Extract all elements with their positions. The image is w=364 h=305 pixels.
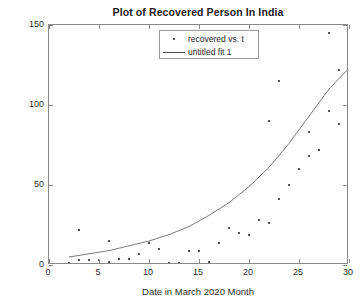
x-tick [249, 259, 250, 263]
data-point [308, 131, 310, 133]
x-tick-top [149, 25, 150, 29]
x-tick-label: 10 [143, 267, 153, 277]
data-point [218, 242, 220, 244]
y-tick [49, 265, 53, 266]
x-tick-top [349, 25, 350, 29]
figure-canvas: Plot of Recovered Person In India Recove… [0, 0, 364, 305]
data-point [268, 222, 270, 224]
scatter-marker-icon [160, 38, 188, 40]
y-tick [49, 105, 53, 106]
data-point [178, 262, 180, 263]
data-point [328, 32, 330, 34]
x-tick-label: 20 [243, 267, 253, 277]
data-point [188, 250, 190, 252]
data-point [118, 258, 120, 260]
y-tick-right [343, 25, 347, 26]
legend-label-fit: untitled fit 1 [188, 47, 231, 57]
x-tick [199, 259, 200, 263]
y-tick-right [343, 265, 347, 266]
x-tick [299, 259, 300, 263]
x-axis-label: Date in March 2020 Month [48, 286, 348, 297]
x-tick-label: 5 [95, 267, 100, 277]
page-title: Plot of Recovered Person In India [48, 6, 348, 18]
line-marker-icon [160, 52, 188, 53]
data-point [298, 168, 300, 170]
x-tick [99, 259, 100, 263]
y-tick [49, 185, 53, 186]
x-tick [349, 259, 350, 263]
x-tick-label: 30 [343, 267, 353, 277]
data-point [208, 261, 210, 263]
data-point [248, 234, 250, 236]
y-tick-label: 150 [18, 19, 44, 29]
x-tick-top [199, 25, 200, 29]
data-point [148, 242, 150, 244]
plot-area: recovered vs. t untitled fit 1 [48, 24, 348, 264]
data-point [308, 155, 310, 157]
x-tick-label: 0 [45, 267, 50, 277]
data-point [278, 80, 280, 82]
x-tick-top [249, 25, 250, 29]
data-point [128, 258, 130, 260]
data-point [138, 253, 140, 255]
x-tick-top [299, 25, 300, 29]
data-point [338, 123, 340, 125]
data-point [238, 232, 240, 234]
fit-curve [49, 25, 347, 263]
data-point [338, 69, 340, 71]
data-point [108, 261, 110, 263]
data-point [78, 229, 80, 231]
data-point [268, 120, 270, 122]
data-point [168, 262, 170, 263]
data-point [108, 240, 110, 242]
x-tick [149, 259, 150, 263]
x-tick-label: 15 [193, 267, 203, 277]
legend-item-recovered: recovered vs. t [160, 32, 258, 46]
data-point [88, 259, 90, 261]
y-tick [49, 25, 53, 26]
data-point [68, 262, 70, 263]
x-tick [49, 259, 50, 263]
data-point [258, 219, 260, 221]
data-point [288, 184, 290, 186]
y-tick-right [343, 105, 347, 106]
x-tick-top [99, 25, 100, 29]
data-point [228, 227, 230, 229]
y-tick-label: 0 [18, 259, 44, 269]
y-tick-right [343, 185, 347, 186]
data-point [278, 198, 280, 200]
data-point [318, 149, 320, 151]
y-tick-label: 100 [18, 99, 44, 109]
legend-label-recovered: recovered vs. t [188, 34, 244, 44]
data-point [78, 259, 80, 261]
data-point [198, 250, 200, 252]
y-tick-label: 50 [18, 179, 44, 189]
x-tick-label: 25 [293, 267, 303, 277]
legend-item-fit: untitled fit 1 [160, 45, 258, 59]
data-point [158, 248, 160, 250]
legend[interactable]: recovered vs. t untitled fit 1 [159, 30, 259, 59]
data-point [328, 110, 330, 112]
